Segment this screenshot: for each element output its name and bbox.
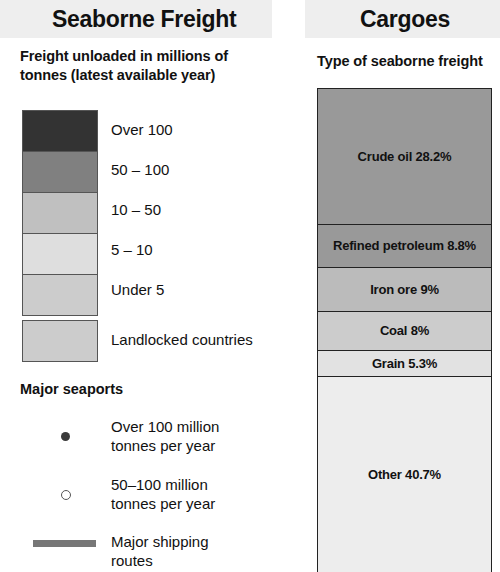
seaborne-freight-title: Seaborne Freight (52, 3, 236, 35)
cargoes-subtitle: Type of seaborne freight (317, 52, 500, 71)
freight-legend-subtitle: Freight unloaded in millions of tonnes (… (20, 47, 270, 85)
cargo-segment: Crude oil 28.2% (318, 89, 491, 225)
freight-class-swatch (23, 275, 97, 315)
freight-class-swatches (22, 110, 98, 316)
shipping-routes-label: Major shipping routes (111, 532, 209, 570)
hollow-dot-icon (61, 490, 71, 500)
freight-class-label: Over 100 (111, 120, 173, 140)
cargo-segment: Refined petroleum 8.8% (318, 225, 491, 268)
major-seaports-heading: Major seaports (20, 381, 123, 397)
cargo-stacked-bar: Crude oil 28.2%Refined petroleum 8.8%Iro… (317, 88, 492, 572)
shipping-route-line-icon (33, 540, 96, 547)
cargo-segment: Coal 8% (318, 312, 491, 351)
landlocked-swatch (22, 320, 98, 362)
seaport-item-label-large: Over 100 million tonnes per year (111, 417, 219, 455)
cargo-segment: Other 40.7% (318, 377, 491, 572)
cargo-segment: Iron ore 9% (318, 268, 491, 312)
seaport-item-label-medium: 50–100 million tonnes per year (111, 475, 215, 513)
freight-class-label: Under 5 (111, 280, 164, 300)
freight-class-label: 50 – 100 (111, 160, 169, 180)
freight-class-swatch (23, 234, 97, 275)
cargo-segment: Grain 5.3% (318, 351, 491, 377)
freight-class-swatch (23, 111, 97, 152)
landlocked-label: Landlocked countries (111, 330, 253, 350)
freight-class-swatch (23, 193, 97, 234)
freight-class-label: 5 – 10 (111, 240, 153, 260)
filled-dot-icon (61, 432, 70, 441)
cargoes-title: Cargoes (360, 3, 450, 35)
freight-class-swatch (23, 152, 97, 193)
freight-class-label: 10 – 50 (111, 200, 161, 220)
